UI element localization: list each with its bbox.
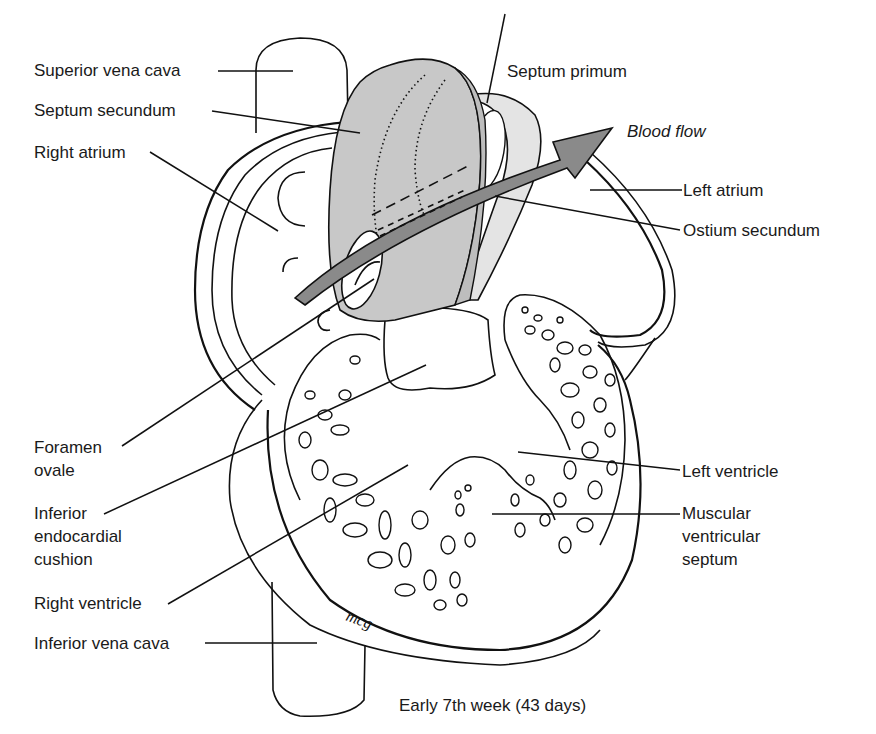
- label-inferior-endocardial-cushion: Inferior endocardial cushion: [34, 502, 122, 571]
- label-right-ventricle: Right ventricle: [34, 592, 142, 615]
- ventricles-outer: [268, 345, 641, 650]
- label-mvs-line2: ventricular: [682, 525, 760, 548]
- label-muscular-ventricular-septum: Muscular ventricular septum: [682, 502, 760, 571]
- figure-caption: Early 7th week (43 days): [399, 694, 586, 717]
- label-mvs-line1: Muscular: [682, 502, 760, 525]
- label-iec-line3: cushion: [34, 548, 122, 571]
- left-atrium-wall-inner: [590, 152, 675, 347]
- label-blood-flow: Blood flow: [627, 120, 705, 143]
- label-iec-line2: endocardial: [34, 525, 122, 548]
- label-foramen-ovale: Foramen ovale: [34, 436, 102, 482]
- heart-development-diagram: mcg Superior vena cava Septum secundum R…: [0, 0, 876, 734]
- label-iec-line1: Inferior: [34, 502, 122, 525]
- illustrator-signature: mcg: [344, 607, 375, 633]
- superior-vena-cava-shape: [256, 38, 348, 133]
- label-septum-secundum: Septum secundum: [34, 99, 176, 122]
- label-right-atrium: Right atrium: [34, 141, 126, 164]
- label-septum-primum: Septum primum: [507, 60, 627, 83]
- label-foramen-ovale-line1: Foramen: [34, 436, 102, 459]
- label-left-atrium: Left atrium: [683, 179, 763, 202]
- muscular-septum-outline: [430, 457, 555, 520]
- label-superior-vena-cava: Superior vena cava: [34, 59, 180, 82]
- endocardial-cushion: [384, 308, 495, 390]
- label-foramen-ovale-line2: ovale: [34, 459, 102, 482]
- right-atrium-wall-outer: [195, 122, 348, 410]
- right-ventricle-trabeculae: [299, 356, 475, 610]
- right-atrium-wall-inner: [212, 132, 342, 395]
- inferior-vena-cava-shape: [272, 582, 365, 716]
- label-inferior-vena-cava: Inferior vena cava: [34, 632, 169, 655]
- label-mvs-line3: septum: [682, 548, 760, 571]
- label-ostium-secundum: Ostium secundum: [683, 219, 820, 242]
- label-left-ventricle: Left ventricle: [682, 460, 778, 483]
